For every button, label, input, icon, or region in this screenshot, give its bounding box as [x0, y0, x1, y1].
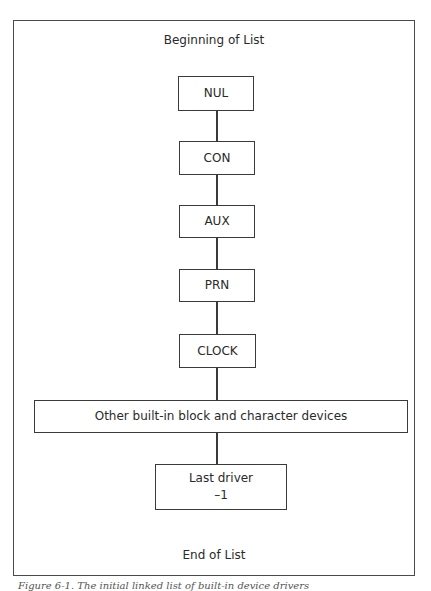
- node-clock: CLOCK: [179, 334, 256, 368]
- beginning-of-list-label: Beginning of List: [13, 33, 415, 47]
- node-last-driver-pointer: –1: [214, 487, 228, 504]
- node-prn: PRN: [179, 269, 255, 302]
- end-of-list-label: End of List: [13, 548, 415, 562]
- node-con-label: CON: [204, 150, 231, 167]
- node-other-devices-label: Other built-in block and character devic…: [95, 408, 348, 425]
- connector-aux-prn: [216, 238, 218, 269]
- figure-caption: Figure 6-1. The initial linked list of b…: [18, 580, 309, 591]
- node-nul: NUL: [178, 76, 254, 111]
- connector-nul-con: [216, 111, 218, 142]
- node-clock-label: CLOCK: [197, 343, 237, 360]
- connector-other-last: [216, 433, 218, 464]
- node-other-devices: Other built-in block and character devic…: [34, 400, 408, 433]
- node-last-driver: Last driver –1: [155, 464, 287, 510]
- connector-clock-other: [216, 368, 218, 400]
- node-aux: AUX: [179, 205, 255, 238]
- node-last-driver-label: Last driver: [189, 470, 253, 487]
- connector-con-aux: [216, 175, 218, 205]
- connector-prn-clock: [216, 302, 218, 334]
- node-con: CON: [179, 141, 255, 175]
- node-nul-label: NUL: [204, 85, 228, 102]
- node-prn-label: PRN: [205, 277, 230, 294]
- node-aux-label: AUX: [204, 213, 229, 230]
